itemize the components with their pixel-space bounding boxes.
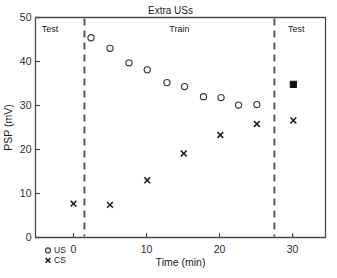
data-point-us-test	[290, 81, 296, 87]
data-point-us	[144, 67, 150, 73]
phase-label: Test	[42, 24, 59, 34]
y-tick-label: 30	[20, 99, 32, 111]
data-point-us	[235, 102, 241, 108]
x-tick-label: 20	[214, 243, 226, 255]
chart-title: Extra USs	[148, 5, 193, 16]
x-axis-title: Time (min)	[156, 256, 206, 268]
plot-frame	[36, 18, 326, 238]
x-tick-label: 10	[141, 243, 153, 255]
legend-label: CS	[54, 255, 66, 265]
phase-label: Test	[288, 24, 305, 34]
y-tick-label: 20	[20, 143, 32, 155]
y-tick-label: 50	[20, 11, 32, 23]
data-point-us	[88, 35, 94, 41]
data-point-us	[126, 60, 132, 66]
y-tick-label: 40	[20, 55, 32, 67]
data-point-us	[181, 83, 187, 89]
y-tick-label: 10	[20, 187, 32, 199]
data-point-us	[254, 102, 260, 108]
y-axis-title: PSP (mV)	[2, 104, 14, 150]
legend-open-circle-icon	[46, 248, 51, 253]
data-point-us	[218, 94, 224, 100]
x-tick-label: 30	[287, 243, 299, 255]
psp-scatter-chart: 010203040500102030Time (min)PSP (mV)Extr…	[0, 0, 337, 278]
y-tick-label: 0	[26, 231, 32, 243]
data-point-us	[200, 94, 206, 100]
phase-label: Train	[169, 24, 189, 34]
x-tick-label: 0	[71, 243, 77, 255]
legend-label: US	[54, 245, 66, 255]
data-point-us	[164, 80, 170, 86]
data-point-us	[107, 45, 113, 51]
